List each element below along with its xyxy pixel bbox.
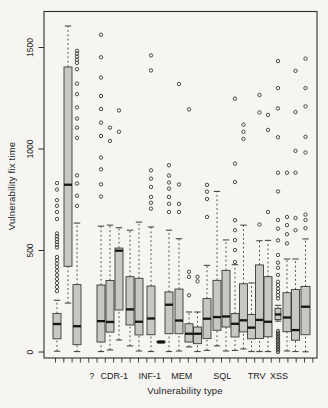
boxplot-XSS-22 [275,59,281,353]
outlier-point [75,117,78,120]
x-category-label-XSS: XSS [270,371,288,381]
outlier-point [276,273,279,276]
boxplot-INF-1-10 [165,164,173,352]
outlier-point [258,111,261,114]
outlier-point [55,188,58,191]
outlier-point [233,248,236,251]
outlier-point [75,174,78,177]
outlier-point [75,194,78,197]
outlier-point [187,275,190,278]
outlier-point [75,136,78,139]
outlier-point [276,86,279,89]
outlier-point [75,204,78,207]
x-axis: ?CDR-1INF-1MEMSQLTRVXSS [56,358,313,381]
outlier-point [99,94,102,97]
outlier-point [304,213,307,216]
iqr-box [213,280,221,330]
outlier-point [55,198,58,201]
outlier-point [75,126,78,129]
y-axis: 050010001500 [25,38,44,355]
outlier-point [276,227,279,230]
outlier-point [167,195,170,198]
outlier-point [167,202,170,205]
x-category-label-INF-1: INF-1 [138,371,161,381]
iqr-box [222,270,230,327]
iqr-box [165,292,173,334]
outlier-point [233,180,236,183]
outlier-point [75,82,78,85]
outlier-point [304,151,307,154]
outlier-point [258,223,261,226]
outlier-point [242,137,245,140]
outlier-point [294,149,297,152]
boxplot-XSS-23 [283,171,291,351]
boxplot-SQL-16 [222,240,230,351]
boxplot-INF-1-9 [157,341,165,343]
boxplot-TRV-19 [248,283,256,352]
boxplot-TRV-20 [256,93,264,351]
outlier-point [294,69,297,72]
boxplot-SQL-17 [231,97,239,350]
outlier-point [276,107,279,110]
y-tick-label: 0 [25,349,35,354]
outlier-point [294,229,297,232]
iqr-box [115,248,123,310]
outlier-point [276,266,279,269]
outlier-point [167,164,170,167]
outlier-point [205,197,208,200]
boxplot-INF-1-11 [175,82,183,351]
outlier-point [99,76,102,79]
outlier-point [177,82,180,85]
outlier-point [233,229,236,232]
outlier-point [233,260,236,263]
boxplot-CDR-1-7 [135,222,143,351]
outlier-point [55,273,58,276]
outlier-point [99,33,102,36]
outlier-point [55,285,58,288]
outlier-point [304,105,307,108]
outlier-point [276,190,279,193]
outlier-point [187,270,190,273]
iqr-box [97,285,105,342]
iqr-box [147,286,155,335]
outlier-point [294,110,297,113]
outlier-point [276,218,279,221]
outlier-point [258,93,261,96]
figure-stage: 050010001500?CDR-1INF-1MEMSQLTRVXSS Vuln… [0,0,328,408]
outlier-point [196,280,199,283]
y-tick-label: 1000 [25,139,35,158]
outlier-point [99,56,102,59]
iqr-box [175,289,183,334]
boxplot-MEM-13 [194,275,202,351]
outlier-point [55,281,58,284]
boxplot-svg: 050010001500?CDR-1INF-1MEMSQLTRVXSS [0,0,328,408]
outlier-point [99,107,102,110]
boxplot-CDR-1-3 [97,33,105,352]
x-category-label-?: ? [89,371,94,381]
iqr-box [194,327,202,344]
boxplot-SQL-15 [213,191,221,345]
outlier-point [285,171,288,174]
iqr-box [73,285,81,345]
outlier-point [177,202,180,205]
outlier-point [205,183,208,186]
outlier-point [99,134,102,137]
x-category-label-TRV: TRV [248,371,266,381]
x-category-label-MEM: MEM [171,371,192,381]
outlier-point [108,139,111,142]
boxplot-SQL-18 [240,123,248,349]
outlier-point [196,275,199,278]
iqr-box [292,289,300,340]
outlier-point [108,126,111,129]
outlier-point [55,265,58,268]
outlier-point [75,182,78,185]
outlier-point [55,269,58,272]
outlier-point [55,217,58,220]
outlier-point [233,238,236,241]
boxplot-CDR-1-6 [126,230,134,346]
iqr-box [64,67,72,266]
boxplot-CDR-1-5 [115,109,123,340]
outlier-point [285,233,288,236]
outlier-point [304,57,307,60]
outlier-point [149,201,152,204]
